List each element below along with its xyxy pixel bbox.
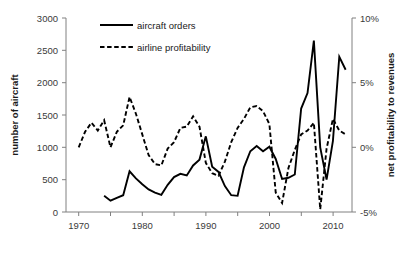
x-tick-label: 1980	[132, 220, 153, 231]
series-line-aircraft-orders	[104, 41, 346, 201]
right-tick-label: -5%	[360, 207, 377, 218]
left-tick-label: 3000	[37, 13, 58, 24]
right-axis-ticks	[352, 18, 356, 212]
left-tick-label: 2000	[37, 77, 58, 88]
x-axis-tick-labels: 1970 1980 1990 2000 2010	[68, 220, 344, 231]
legend-label-airline-profitability: airline profitability	[137, 42, 211, 53]
left-axis-tick-labels: 3000 2500 2000 1500 1000 500 0	[37, 13, 58, 218]
right-tick-label: 10%	[360, 13, 380, 24]
x-axis-ticks	[79, 212, 333, 216]
left-axis-title: number of aircraft	[9, 74, 20, 156]
left-tick-label: 1000	[37, 142, 58, 153]
x-tick-label: 2000	[259, 220, 280, 231]
series-line-airline-profitability	[79, 97, 346, 210]
left-tick-label: 0	[53, 207, 58, 218]
right-axis-title: net profitability to revenues	[385, 53, 396, 178]
x-tick-label: 2010	[323, 220, 344, 231]
right-axis-tick-labels: 10% 5% 0% -5%	[360, 13, 380, 218]
right-tick-label: 0%	[360, 142, 374, 153]
left-tick-label: 2500	[37, 45, 58, 56]
x-tick-label: 1970	[68, 220, 89, 231]
chart-legend: aircraft orders airline profitability	[100, 20, 211, 53]
left-tick-label: 1500	[37, 110, 58, 121]
legend-label-aircraft-orders: aircraft orders	[137, 20, 196, 31]
left-tick-label: 500	[42, 174, 58, 185]
right-tick-label: 5%	[360, 77, 374, 88]
left-axis-ticks	[62, 18, 66, 212]
line-chart-canvas: 3000 2500 2000 1500 1000 500 0 10% 5% 0%…	[0, 0, 410, 264]
chart-figure: 3000 2500 2000 1500 1000 500 0 10% 5% 0%…	[0, 0, 410, 264]
x-tick-label: 1990	[195, 220, 216, 231]
